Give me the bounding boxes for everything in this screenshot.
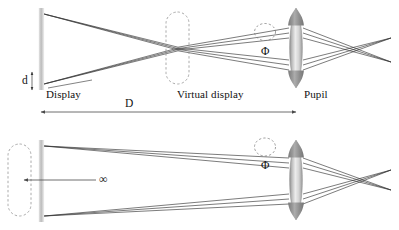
label-dimension-D: D xyxy=(125,98,133,110)
ray-bundle-lower xyxy=(44,48,289,84)
display-panel-bottom xyxy=(39,140,45,222)
display-panel-top xyxy=(39,8,45,90)
ray-bundle-upper-post-pupil-infinity xyxy=(303,158,391,190)
label-virtual-display: Virtual display xyxy=(177,89,244,100)
pupil-lens-bottom xyxy=(288,140,304,220)
label-dimension-d: d xyxy=(22,75,28,87)
label-phi-top: Φ xyxy=(261,46,270,58)
label-display: Display xyxy=(46,89,81,100)
label-phi-bottom: Φ xyxy=(261,160,270,172)
figure-canvas: Display Virtual display Pupil d D Φ Φ ∞ xyxy=(0,0,399,230)
ray-bundle-upper-collimated xyxy=(44,146,289,168)
ray-bundle-lower-post-pupil xyxy=(303,38,391,70)
panel-infinity xyxy=(8,138,391,222)
phi-aperture-circle-bottom xyxy=(255,138,276,156)
optical-ray-diagram xyxy=(0,0,399,230)
pupil-lens-top xyxy=(288,8,304,88)
ray-bundle-lower-collimated xyxy=(44,194,289,216)
label-infinity: ∞ xyxy=(99,173,108,185)
label-pupil: Pupil xyxy=(304,89,328,100)
ray-bundle-upper xyxy=(44,14,289,50)
